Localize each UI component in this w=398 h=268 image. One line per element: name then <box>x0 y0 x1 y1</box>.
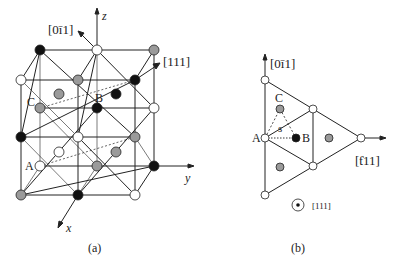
atom-a <box>35 161 45 171</box>
atom-black <box>73 190 83 200</box>
site-white <box>357 134 365 142</box>
atom-black-interior <box>111 89 121 99</box>
atom-white <box>73 132 83 142</box>
atom-black <box>16 132 26 142</box>
caption-b: (b) <box>291 241 305 255</box>
atom-gray <box>92 161 102 171</box>
direction-0-1-1-label-b: [0ī1] <box>270 56 295 71</box>
site-b <box>292 134 300 142</box>
axis-y-label: y <box>184 171 191 185</box>
atom-white <box>130 190 140 200</box>
atom-gray <box>130 132 140 142</box>
atom-gray <box>16 190 26 200</box>
atom-white <box>16 75 26 85</box>
direction-0-1-1-label: [0ī1] <box>48 22 73 37</box>
site-gray <box>276 163 284 171</box>
atom-black <box>130 75 140 85</box>
figure: z y x [0ī1] [111] C B A (a) <box>0 0 398 268</box>
atom-white-interior <box>54 147 64 157</box>
label-a: A <box>25 159 34 173</box>
site-white <box>261 191 269 199</box>
axis-x-label: x <box>65 221 72 235</box>
caption-a: (a) <box>88 241 101 255</box>
label-s: s <box>278 122 282 134</box>
atom-white <box>92 45 102 55</box>
atom-c <box>35 103 45 113</box>
direction-111-out-label: [111] <box>312 201 331 211</box>
site-white <box>261 76 269 84</box>
site-a <box>261 134 269 142</box>
atom-black <box>149 161 159 171</box>
panel-a <box>21 8 194 228</box>
label-c: C <box>27 95 35 109</box>
label-b-b: B <box>302 131 310 145</box>
site-gray <box>325 134 333 142</box>
atom-gray <box>149 45 159 55</box>
label-c-b: C <box>275 91 283 105</box>
atom-black <box>35 45 45 55</box>
atom-gray <box>73 75 83 85</box>
direction-211-label: [ƭ11] <box>355 153 380 168</box>
atom-gray-interior <box>54 89 64 99</box>
label-a-b: A <box>252 131 261 145</box>
axis-z-label: z <box>101 9 107 23</box>
site-white <box>309 162 317 170</box>
site-c <box>276 105 284 113</box>
atom-gray-interior <box>111 147 121 157</box>
site-white <box>309 105 317 113</box>
direction-111-label: [111] <box>163 54 190 69</box>
atom-white <box>149 103 159 113</box>
label-b: B <box>95 91 103 105</box>
panel-b-labels: [0ī1] [ƭ11] [111] C B A s (b) <box>252 56 380 255</box>
panel-a-labels: z y x [0ī1] [111] C B A (a) <box>25 9 191 255</box>
